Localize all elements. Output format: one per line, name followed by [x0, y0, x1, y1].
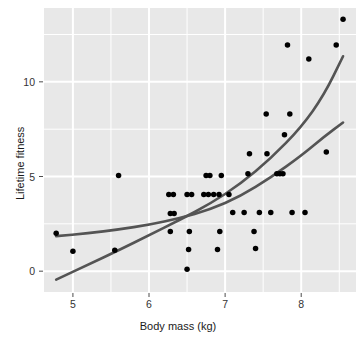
x-axis-tick-label: 8 — [298, 298, 304, 310]
data-point — [251, 229, 257, 235]
data-point — [302, 210, 308, 216]
data-point — [171, 192, 177, 198]
data-point — [207, 173, 213, 179]
data-point — [168, 229, 174, 235]
data-point — [211, 192, 217, 198]
data-point — [217, 229, 223, 235]
data-point — [215, 247, 221, 253]
y-axis-label: Lifetime fitness — [14, 127, 26, 200]
data-point — [268, 210, 274, 216]
data-point — [245, 171, 251, 177]
data-point — [247, 151, 253, 157]
data-point — [285, 42, 291, 48]
data-point — [53, 231, 59, 237]
data-point — [186, 247, 192, 253]
data-point — [282, 132, 288, 138]
x-axis-tick-label: 6 — [146, 298, 152, 310]
data-point — [184, 267, 190, 273]
data-point — [340, 17, 346, 23]
data-point — [263, 111, 269, 117]
data-point — [280, 171, 286, 177]
data-point — [306, 56, 312, 62]
data-point — [216, 192, 222, 198]
scatter-plot-figure: 56780510 Body mass (kg) Lifetime fitness — [0, 0, 356, 342]
data-point — [112, 248, 118, 254]
data-point — [171, 211, 177, 217]
data-point — [289, 210, 295, 216]
data-point — [324, 149, 330, 155]
data-point — [257, 210, 263, 216]
data-point — [287, 111, 293, 117]
y-axis-tick-label: 0 — [29, 265, 35, 277]
x-axis-label: Body mass (kg) — [0, 320, 356, 332]
data-point — [230, 210, 236, 216]
y-axis-tick-label: 5 — [29, 171, 35, 183]
data-point — [206, 192, 212, 198]
data-point — [189, 192, 195, 198]
data-point — [253, 246, 258, 252]
plot-canvas: 56780510 — [0, 0, 356, 342]
x-axis-tick-label: 7 — [222, 298, 228, 310]
x-axis-tick-label: 5 — [70, 298, 76, 310]
data-point — [70, 249, 76, 255]
data-point — [219, 173, 225, 179]
data-point — [187, 229, 193, 235]
data-point — [264, 151, 270, 157]
data-point — [333, 42, 339, 48]
data-point — [226, 192, 232, 198]
data-point — [116, 173, 122, 179]
y-axis-tick-label: 10 — [23, 76, 35, 88]
data-point — [241, 210, 247, 216]
